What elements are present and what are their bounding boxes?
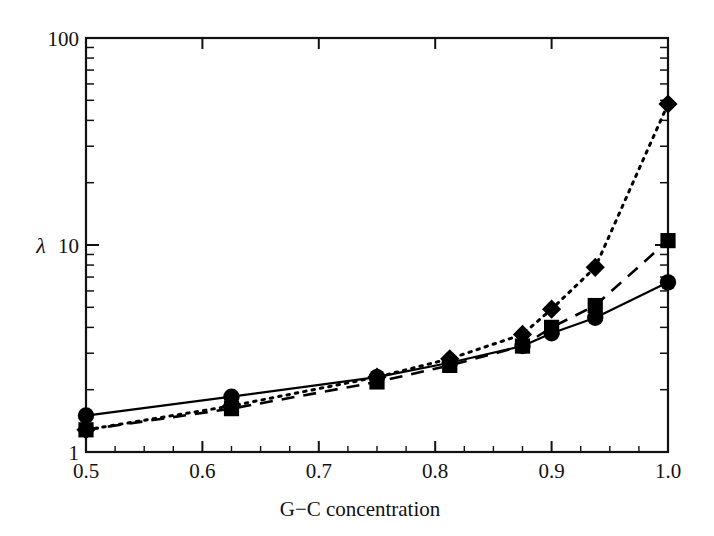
- data-point-square: [660, 233, 675, 248]
- x-tick-label: 0.7: [306, 459, 332, 483]
- chart-canvas: 0.50.60.70.80.91.0 110100 λ G−C concentr…: [0, 0, 714, 536]
- x-axis-title: G−C concentration: [280, 497, 441, 521]
- x-tick-label: 1.0: [655, 459, 681, 483]
- figure-container: 0.50.60.70.80.91.0 110100 λ G−C concentr…: [0, 0, 714, 536]
- x-tick-label: 0.6: [189, 459, 215, 483]
- y-tick-label: 10: [58, 234, 79, 258]
- data-point-square: [544, 320, 559, 335]
- data-point-square: [588, 298, 603, 313]
- chart-background: [0, 0, 714, 536]
- x-tick-label: 0.8: [422, 459, 448, 483]
- y-tick-label: 100: [48, 27, 80, 51]
- y-tick-label: 1: [69, 441, 80, 465]
- data-point-circle: [660, 274, 676, 290]
- y-axis-label: λ: [35, 233, 46, 258]
- x-tick-label: 0.9: [538, 459, 564, 483]
